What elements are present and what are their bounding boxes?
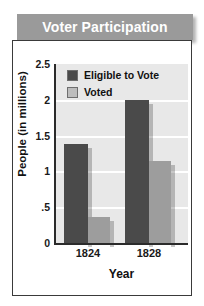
gridline-1.5 [55,136,188,138]
y-tick-label: 0 [24,238,50,249]
x-tick-label-1824: 1824 [62,248,114,259]
bar-1824-voted [88,217,110,243]
bar-1828-eligible [125,100,149,243]
legend-label-eligible: Eligible to Vote [84,70,159,81]
x-tick-label-1828: 1828 [123,248,175,259]
x-axis-line [54,243,188,245]
y-tick-label: .5 [24,202,50,213]
chart-legend: Eligible to Vote Voted [67,70,159,98]
legend-label-voted: Voted [84,87,112,98]
legend-item-voted: Voted [67,87,159,98]
bar-1828-voted [149,161,171,243]
plot-area: Eligible to Vote Voted [55,64,188,243]
voter-participation-figure: Voter Participation Eligible to Vote Vot… [0,0,204,306]
y-axis-line [54,64,56,244]
legend-item-eligible: Eligible to Vote [67,70,159,81]
legend-swatch-icon [67,70,78,81]
x-axis-title: Year [55,267,188,281]
gridline-2.0 [55,100,188,102]
page-title: Voter Participation [42,20,167,34]
legend-swatch-icon [67,87,78,98]
y-axis-title: People (in millions) [16,59,28,189]
bar-1824-eligible [64,144,88,243]
